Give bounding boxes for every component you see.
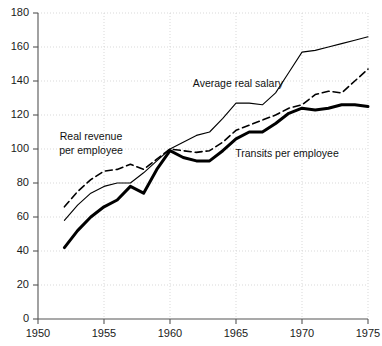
x-tick-label: 1960 bbox=[158, 327, 182, 339]
chart-container: 020406080100120140160180 195019551960196… bbox=[0, 0, 382, 346]
y-tick-label: 180 bbox=[11, 6, 29, 18]
y-tick-label: 120 bbox=[11, 108, 29, 120]
y-tick-label: 160 bbox=[11, 40, 29, 52]
series-line-2 bbox=[64, 105, 368, 248]
y-tick-label: 80 bbox=[17, 176, 29, 188]
y-tick-label: 0 bbox=[23, 312, 29, 324]
y-tick-label: 60 bbox=[17, 210, 29, 222]
x-tick-label: 1965 bbox=[224, 327, 248, 339]
line-chart: 020406080100120140160180 195019551960196… bbox=[0, 0, 382, 346]
series-annotation-label: per employee bbox=[59, 144, 123, 156]
y-tick-label: 40 bbox=[17, 244, 29, 256]
x-tick-label: 1975 bbox=[356, 327, 380, 339]
gridlines bbox=[38, 13, 368, 319]
y-tick-label: 100 bbox=[11, 142, 29, 154]
series-lines bbox=[64, 37, 368, 248]
series-annotation-label: Real revenue bbox=[60, 130, 123, 142]
series-line-0 bbox=[64, 37, 368, 221]
y-axis-ticks: 020406080100120140160180 bbox=[11, 6, 38, 324]
x-tick-label: 1950 bbox=[26, 327, 50, 339]
x-tick-label: 1955 bbox=[92, 327, 116, 339]
series-annotations: Real revenueper employeeAverage real sal… bbox=[59, 77, 339, 159]
series-annotation-label: Transits per employee bbox=[235, 147, 339, 159]
series-annotation-label: Average real salary bbox=[193, 77, 284, 89]
x-axis-ticks: 195019551960196519701975 bbox=[26, 319, 380, 339]
y-tick-label: 20 bbox=[17, 278, 29, 290]
y-tick-label: 140 bbox=[11, 74, 29, 86]
x-tick-label: 1970 bbox=[290, 327, 314, 339]
